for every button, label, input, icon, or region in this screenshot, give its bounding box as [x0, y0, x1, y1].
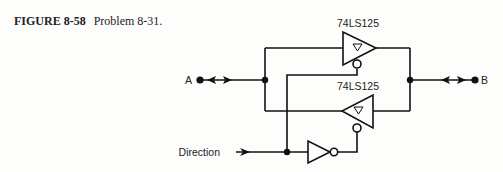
- junction-direction: [284, 149, 290, 155]
- terminal-b-dot: [471, 76, 478, 83]
- terminal-a-label: A: [185, 74, 192, 86]
- terminal-a-dot: [196, 76, 203, 83]
- inverter-symbol: [308, 141, 330, 163]
- wire-bottom-enable: [337, 132, 357, 152]
- direction-label: Direction: [179, 146, 221, 158]
- bidirectional-buffer-circuit: 74LS125 74LS125 A B Direction: [0, 0, 503, 172]
- terminal-b-label: B: [481, 74, 488, 86]
- inverter-bubble: [330, 148, 337, 155]
- junction-a: [262, 77, 268, 83]
- bottom-buffer-label: 74LS125: [337, 80, 379, 92]
- bottom-buffer-enable-bubble: [353, 124, 361, 132]
- junction-b: [407, 77, 413, 83]
- top-buffer-enable-bubble: [353, 60, 361, 68]
- top-buffer-label: 74LS125: [337, 17, 379, 29]
- bottom-buffer-symbol: [342, 95, 373, 128]
